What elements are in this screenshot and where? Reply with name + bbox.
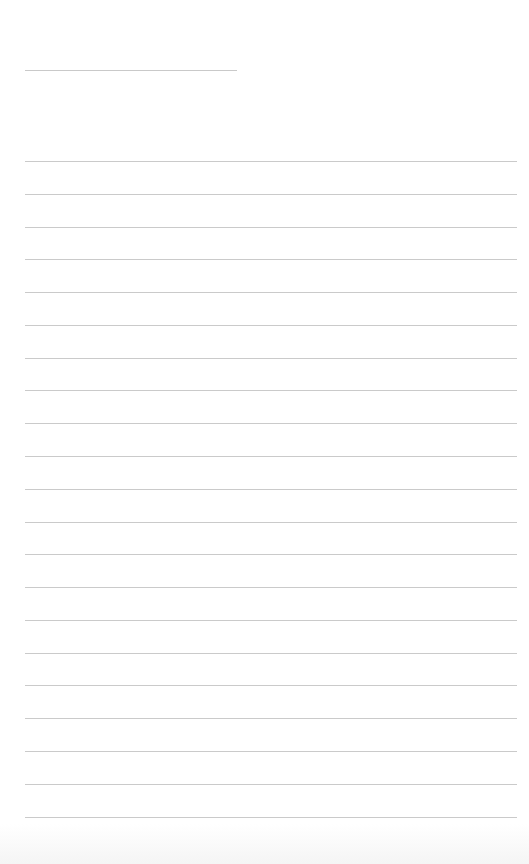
ruled-line-7[interactable] [25,358,517,359]
ruled-line-15[interactable] [25,620,517,621]
ruled-line-11[interactable] [25,489,517,490]
ruled-line-8[interactable] [25,390,517,391]
ruled-line-9[interactable] [25,423,517,424]
ruled-line-3[interactable] [25,227,517,228]
ruled-line-6[interactable] [25,325,517,326]
ruled-line-10[interactable] [25,456,517,457]
lined-paper-page [0,0,529,864]
ruled-line-2[interactable] [25,194,517,195]
ruled-line-14[interactable] [25,587,517,588]
ruled-line-16[interactable] [25,653,517,654]
ruled-line-1[interactable] [25,161,517,162]
ruled-line-4[interactable] [25,259,517,260]
title-line[interactable] [25,70,237,71]
ruled-line-5[interactable] [25,292,517,293]
ruled-line-17[interactable] [25,685,517,686]
ruled-line-20[interactable] [25,784,517,785]
ruled-line-13[interactable] [25,554,517,555]
ruled-line-18[interactable] [25,718,517,719]
ruled-line-21[interactable] [25,817,517,818]
ruled-line-19[interactable] [25,751,517,752]
ruled-line-12[interactable] [25,522,517,523]
